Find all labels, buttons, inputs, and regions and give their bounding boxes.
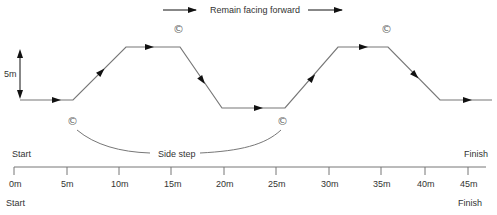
direction-arrows — [52, 44, 472, 111]
tick-label-1: 5m — [61, 179, 74, 189]
start-label-top: Start — [12, 149, 32, 159]
tick-label-5: 25m — [268, 179, 286, 189]
height-marker-icon — [17, 49, 23, 99]
instruction-text: Remain facing forward — [210, 5, 300, 15]
forward-arrow-right-icon — [308, 7, 343, 13]
tick-label-9: 45m — [460, 179, 478, 189]
side-step-curve — [77, 130, 150, 153]
finish-label-bottom: Finish — [458, 198, 482, 208]
cone-marker-1: © — [173, 23, 184, 36]
side-step-label: Side step — [158, 149, 196, 159]
cone-marker-4: © — [277, 115, 288, 128]
start-label-bottom: Start — [6, 198, 26, 208]
tick-label-3: 15m — [164, 179, 182, 189]
tick-label-2: 10m — [111, 179, 129, 189]
tick-label-8: 40m — [417, 179, 435, 189]
tick-label-7: 35m — [373, 179, 391, 189]
cone-marker-3: © — [67, 115, 78, 128]
cone-marker-2: © — [381, 23, 392, 36]
finish-label-top: Finish — [464, 149, 488, 159]
tick-label-0: 0m — [9, 179, 22, 189]
drill-path — [20, 47, 492, 108]
axis-ticks — [14, 167, 468, 175]
height-label: 5m — [4, 69, 17, 79]
forward-arrow-left-icon — [163, 7, 197, 13]
tick-label-6: 30m — [321, 179, 339, 189]
drill-diagram: Remain facing forward © © © © 5m Side st… — [0, 0, 497, 215]
tick-label-4: 20m — [216, 179, 234, 189]
side-step-curve-right — [200, 130, 281, 153]
